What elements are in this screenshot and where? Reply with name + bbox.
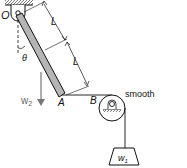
- statics-diagram: O θ L L w2 A B smooth w1: [0, 0, 187, 168]
- angle-arc: [18, 46, 25, 49]
- label-l-lower: L: [73, 56, 79, 67]
- label-smooth: smooth: [125, 89, 155, 99]
- label-l-upper: L: [51, 16, 57, 27]
- label-o: O: [1, 9, 10, 21]
- pulley-icon: [99, 95, 125, 121]
- weight-w2-arrow: [37, 72, 45, 106]
- ceiling-support: [5, 0, 33, 5]
- label-a: A: [57, 97, 65, 108]
- label-w2: w2: [20, 95, 32, 107]
- label-b: B: [90, 95, 97, 106]
- label-theta: θ: [22, 53, 27, 63]
